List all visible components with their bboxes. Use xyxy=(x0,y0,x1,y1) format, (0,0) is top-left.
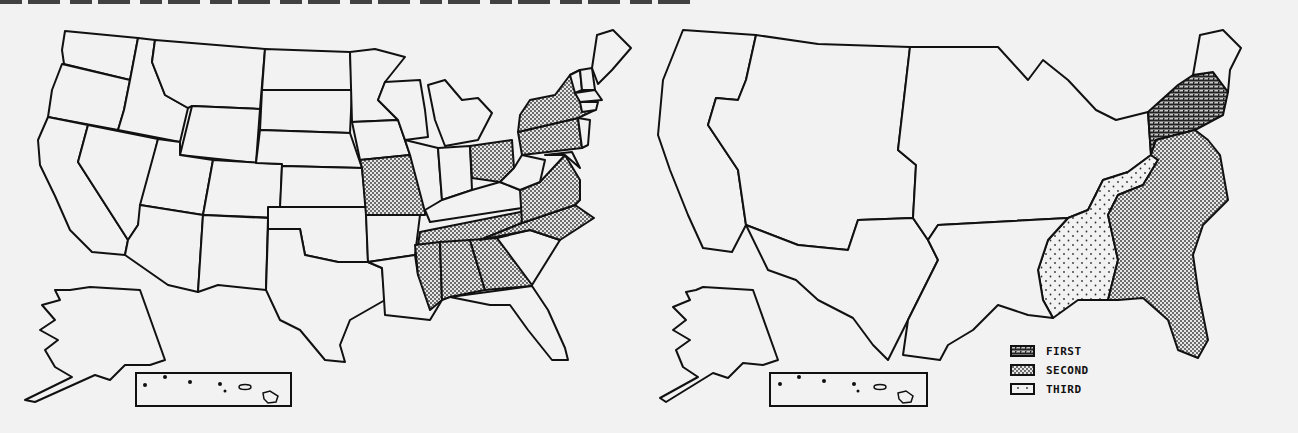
hawaii-inset xyxy=(136,373,291,406)
hawaii-inset xyxy=(770,373,927,406)
state-mi xyxy=(428,80,492,146)
state-fl xyxy=(450,286,568,360)
state-map xyxy=(0,0,650,433)
legend-item-second: SECOND xyxy=(1010,361,1089,379)
state-me xyxy=(592,30,631,84)
state-ks xyxy=(280,166,366,207)
legend-label: SECOND xyxy=(1046,364,1089,377)
state-sd xyxy=(260,90,352,133)
regional-map xyxy=(648,0,1298,433)
legend-label: FIRST xyxy=(1046,345,1082,358)
dense-dot-swatch-icon xyxy=(1010,364,1035,376)
crosshatch-swatch-icon xyxy=(1010,345,1035,357)
state-wy xyxy=(180,106,260,163)
state-nm xyxy=(198,215,268,292)
legend-label: THIRD xyxy=(1046,383,1082,396)
sparse-dot-swatch-icon xyxy=(1010,383,1035,395)
state-ma xyxy=(575,90,602,102)
state-nd xyxy=(262,49,352,90)
state-ct xyxy=(580,102,598,112)
legend: FIRST SECOND THIRD xyxy=(1010,342,1089,399)
legend-item-first: FIRST xyxy=(1010,342,1089,360)
legend-item-third: THIRD xyxy=(1010,380,1089,398)
state-ak-right xyxy=(660,287,778,402)
state-ne xyxy=(256,130,362,168)
